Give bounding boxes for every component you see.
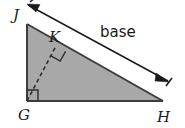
- base-label: base: [100, 23, 136, 41]
- vertex-label-g: G: [18, 106, 30, 124]
- arrowhead-right: [155, 73, 169, 82]
- figure-canvas: J G H K base: [0, 0, 185, 128]
- tick-left: [30, 0, 36, 2]
- geometry-diagram: J G H K base: [0, 0, 185, 128]
- vertex-label-h: H: [156, 108, 171, 126]
- vertex-label-j: J: [10, 6, 20, 24]
- vertex-label-k: K: [48, 28, 61, 46]
